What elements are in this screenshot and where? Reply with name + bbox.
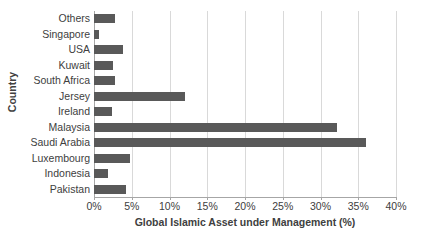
x-axis-tick-mark (283, 197, 284, 200)
x-axis-tick-mark (207, 197, 208, 200)
bar[interactable] (94, 92, 185, 101)
bar-series (94, 11, 396, 197)
y-axis-tick-labels: OthersSingaporeUSAKuwaitSouth AfricaJers… (12, 11, 90, 197)
x-axis-tick-label: 30% (301, 200, 341, 212)
bar[interactable] (94, 45, 123, 54)
bar-row[interactable] (94, 182, 126, 198)
x-axis-tick-labels: 0%5%10%15%20%25%30%35%40% (94, 200, 396, 214)
x-axis-tick-label: 15% (187, 200, 227, 212)
x-axis-tick-label: 20% (225, 200, 265, 212)
bar[interactable] (94, 138, 366, 147)
bar-chart: Country OthersSingaporeUSAKuwaitSouth Af… (0, 0, 424, 246)
plot-area (94, 11, 396, 197)
x-axis-tick-label: 10% (150, 200, 190, 212)
x-axis-tick-mark (132, 197, 133, 200)
bar-row[interactable] (94, 73, 115, 89)
bar-row[interactable] (94, 58, 113, 74)
y-axis-tick-label: South Africa (12, 75, 90, 86)
bar[interactable] (94, 14, 115, 23)
x-axis-tick-mark (396, 197, 397, 200)
bar[interactable] (94, 107, 112, 116)
x-axis-tick-label: 25% (263, 200, 303, 212)
bar-row[interactable] (94, 11, 115, 27)
bar[interactable] (94, 30, 99, 39)
x-axis-tick-label: 5% (112, 200, 152, 212)
bar[interactable] (94, 169, 108, 178)
y-axis-tick-label: Saudi Arabia (12, 137, 90, 148)
bar[interactable] (94, 185, 126, 194)
bar[interactable] (94, 154, 130, 163)
bar-row[interactable] (94, 104, 112, 120)
gridline (396, 11, 397, 197)
y-axis-tick-label: Jersey (12, 91, 90, 102)
y-axis-tick-label: Indonesia (12, 168, 90, 179)
x-axis-tick-mark (321, 197, 322, 200)
y-axis-tick-label: Luxembourg (12, 153, 90, 164)
x-axis-tick-label: 35% (338, 200, 378, 212)
bar-row[interactable] (94, 27, 99, 43)
y-axis-tick-label: Others (12, 13, 90, 24)
bar[interactable] (94, 123, 337, 132)
y-axis-tick-label: Ireland (12, 106, 90, 117)
x-axis-tick-label: 0% (74, 200, 114, 212)
bar-row[interactable] (94, 120, 337, 136)
y-axis-tick-label: Pakistan (12, 184, 90, 195)
y-axis-tick-label: Singapore (12, 29, 90, 40)
y-axis-tick-label: Kuwait (12, 60, 90, 71)
bar-row[interactable] (94, 166, 108, 182)
x-axis-tick-mark (245, 197, 246, 200)
bar[interactable] (94, 76, 115, 85)
x-axis-tick-label: 40% (376, 200, 416, 212)
x-axis-title: Global Islamic Asset under Management (%… (94, 216, 396, 228)
bar[interactable] (94, 61, 113, 70)
bar-row[interactable] (94, 89, 185, 105)
y-axis-tick-label: Malaysia (12, 122, 90, 133)
x-axis-tick-mark (94, 197, 95, 200)
bar-row[interactable] (94, 135, 366, 151)
bar-row[interactable] (94, 151, 130, 167)
x-axis-tick-mark (170, 197, 171, 200)
y-axis-tick-label: USA (12, 44, 90, 55)
bar-row[interactable] (94, 42, 123, 58)
x-axis-tick-mark (358, 197, 359, 200)
